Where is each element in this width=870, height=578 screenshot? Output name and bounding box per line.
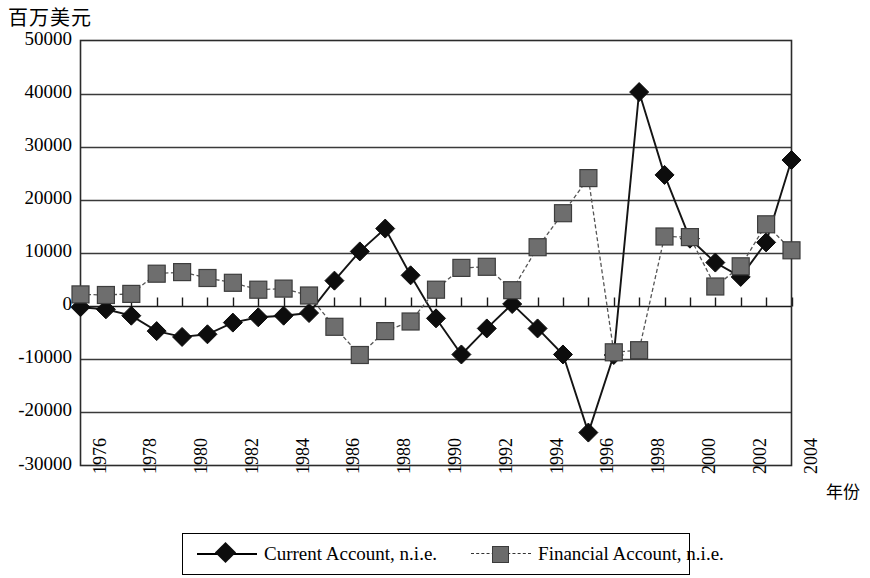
series-lines [81, 92, 792, 433]
x-axis-tick-label: 1998 [648, 438, 669, 474]
data-point-square [605, 344, 622, 361]
y-axis-tick-label: -30000 [2, 453, 72, 475]
data-point-square [199, 270, 216, 287]
legend-label-financial-account: Financial Account, n.i.e. [538, 543, 724, 565]
data-point-square [758, 216, 775, 233]
x-axis-tick-label: 1996 [597, 438, 618, 474]
legend-label-current-account: Current Account, n.i.e. [264, 543, 437, 565]
data-point-square [428, 281, 445, 298]
y-axis-tick-label: 10000 [2, 240, 72, 262]
data-point-diamond [782, 151, 801, 170]
plot-canvas [0, 0, 870, 578]
data-point-square [326, 318, 343, 335]
data-point-square [656, 228, 673, 245]
data-point-square [351, 347, 368, 364]
data-point-square [707, 278, 724, 295]
data-point-square [478, 258, 495, 275]
data-point-square [631, 342, 648, 359]
legend-item-financial-account: Financial Account, n.i.e. [471, 543, 724, 565]
data-point-square [174, 264, 191, 281]
data-point-square [504, 282, 521, 299]
data-point-square [250, 281, 267, 298]
axis-tick-marks [82, 298, 793, 307]
x-axis-tick-label: 2002 [750, 438, 771, 474]
data-point-square [97, 287, 114, 304]
data-point-square [224, 274, 241, 291]
x-axis-tick-label: 2004 [801, 438, 822, 474]
data-point-square [681, 229, 698, 246]
data-point-diamond [401, 266, 420, 285]
data-point-square [732, 258, 749, 275]
data-point-diamond [427, 309, 446, 328]
data-point-square [275, 280, 292, 297]
gridlines [81, 95, 792, 413]
y-axis-tick-label: 20000 [2, 187, 72, 209]
x-axis-tick-label: 1988 [394, 438, 415, 474]
x-axis-tick-label: 2000 [699, 438, 720, 474]
data-point-diamond [757, 233, 776, 252]
data-point-diamond [198, 325, 217, 344]
data-point-square [580, 170, 597, 187]
x-axis-tick-label: 1984 [293, 438, 314, 474]
data-point-diamond [630, 83, 649, 102]
y-axis-tick-label: -20000 [2, 399, 72, 421]
series-markers [71, 83, 801, 443]
x-axis-tick-label: 1982 [242, 438, 263, 474]
data-point-diamond [223, 313, 242, 332]
x-axis-tick-label: 1986 [343, 438, 364, 474]
legend-item-current-account: Current Account, n.i.e. [197, 543, 437, 565]
chart-legend: Current Account, n.i.e. Financial Accoun… [182, 533, 690, 575]
x-axis-tick-label: 1978 [140, 438, 161, 474]
data-point-diamond [274, 306, 293, 325]
data-point-diamond [173, 327, 192, 346]
diamond-marker-icon [197, 545, 257, 563]
data-point-square [123, 285, 140, 302]
x-axis-title: 年份 [826, 478, 860, 503]
x-axis-tick-label: 1980 [191, 438, 212, 474]
y-axis-tick-label: 40000 [2, 81, 72, 103]
data-point-square [783, 242, 800, 259]
data-point-square [402, 313, 419, 330]
y-axis-tick-label: 30000 [2, 134, 72, 156]
data-point-square [529, 239, 546, 256]
data-point-square [555, 205, 572, 222]
data-point-square [148, 265, 165, 282]
x-axis-tick-label: 1976 [90, 438, 111, 474]
data-point-diamond [147, 322, 166, 341]
data-point-diamond [249, 308, 268, 327]
y-axis-tick-label: -10000 [2, 346, 72, 368]
series-line [81, 92, 792, 433]
data-point-diamond [122, 306, 141, 325]
y-axis-tick-label: 0 [2, 293, 72, 315]
data-point-square [453, 259, 470, 276]
data-point-diamond [655, 165, 674, 184]
y-axis-tick-label: 50000 [2, 28, 72, 50]
square-marker-icon [471, 545, 531, 563]
x-axis-tick-label: 1994 [547, 438, 568, 474]
chart-figure: 百万美元 年份 50000400003000020000100000-10000… [0, 0, 870, 578]
x-axis-tick-label: 1992 [496, 438, 517, 474]
x-axis-tick-label: 1990 [445, 438, 466, 474]
data-point-square [301, 287, 318, 304]
data-point-diamond [579, 423, 598, 442]
data-point-square [72, 286, 89, 303]
data-point-square [377, 323, 394, 340]
